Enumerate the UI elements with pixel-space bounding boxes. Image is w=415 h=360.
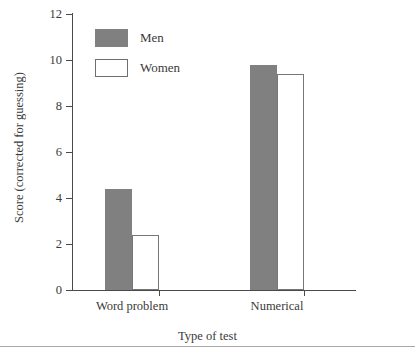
x-axis-tick <box>304 290 305 296</box>
y-axis-tick-label: 0 <box>56 284 62 297</box>
y-axis-tick-label: 10 <box>50 54 63 67</box>
y-axis-tick-label: 6 <box>56 146 62 159</box>
chart-legend: MenWomen <box>95 25 180 85</box>
y-axis-tick: 12 <box>66 14 72 15</box>
bar-men-numerical <box>250 65 277 290</box>
y-axis-title: Score (corrected for guessing) <box>10 48 28 248</box>
legend-entry-women: Women <box>95 55 180 81</box>
bar-women-numerical <box>277 74 304 290</box>
y-axis-tick: 0 <box>66 290 72 291</box>
bar-women-word-problem <box>132 235 159 290</box>
x-axis-line <box>72 290 356 291</box>
y-axis-tick: 4 <box>66 198 72 199</box>
x-axis-category-label: Word problem <box>96 299 168 314</box>
x-axis-category-label: Numerical <box>251 299 304 314</box>
y-axis-tick-label: 12 <box>50 8 63 21</box>
y-axis-tick-label: 8 <box>56 100 62 113</box>
legend-label: Women <box>140 60 180 76</box>
legend-swatch-women <box>95 59 128 77</box>
y-axis-tick: 10 <box>66 60 72 61</box>
y-axis-tick-label: 4 <box>56 192 62 205</box>
legend-label: Men <box>140 30 164 46</box>
bar-chart-figure: Score (corrected for guessing) 121086420… <box>0 0 415 360</box>
legend-entry-men: Men <box>95 25 180 51</box>
bar-men-word-problem <box>105 189 132 290</box>
legend-swatch-men <box>95 29 128 47</box>
x-axis-tick <box>159 290 160 296</box>
bottom-divider <box>0 346 415 347</box>
y-axis-tick: 8 <box>66 106 72 107</box>
y-axis-tick-label: 2 <box>56 238 62 251</box>
y-axis-tick: 2 <box>66 244 72 245</box>
x-axis-title: Type of test <box>0 329 415 344</box>
y-axis-tick: 6 <box>66 152 72 153</box>
